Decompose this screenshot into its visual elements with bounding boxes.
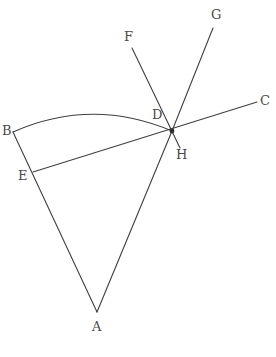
arc-b-to-intersection [13, 114, 172, 132]
segment-a-intersection [97, 131, 172, 312]
point-label-f: F [124, 30, 133, 43]
intersection-point-marker [170, 129, 175, 134]
segment-e-c [33, 102, 257, 172]
point-label-b: B [2, 124, 12, 137]
point-label-c: C [260, 94, 270, 107]
segment-a-b [13, 132, 97, 312]
segment-g-intersection [172, 28, 213, 131]
point-label-h: H [176, 148, 187, 161]
point-label-e: E [18, 169, 28, 182]
geometry-figure: A B C D E F G H [0, 0, 276, 357]
geometry-canvas [0, 0, 276, 357]
point-label-d: D [152, 108, 162, 121]
point-label-g: G [211, 8, 221, 21]
point-label-a: A [92, 320, 101, 333]
